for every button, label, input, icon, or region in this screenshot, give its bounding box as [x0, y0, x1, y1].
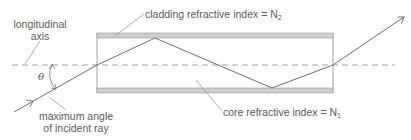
incident-ray: [14, 65, 97, 112]
core-label: core refractive index = N1: [223, 106, 341, 122]
fiber-core: [97, 33, 333, 93]
incident-leader-line: [49, 97, 66, 110]
exit-ray: [333, 17, 404, 65]
theta-symbol: θ: [38, 71, 44, 82]
core-leader-line: [196, 80, 222, 111]
incident-label-line2: of incident ray: [36, 122, 116, 134]
core-label-text: core refractive index = N: [223, 106, 337, 118]
incident-label-line1: maximum angle: [36, 110, 116, 122]
longitudinal-axis-label-line2: axis: [10, 30, 70, 42]
theta-label: θ: [38, 71, 44, 83]
cladding-subscript: 2: [278, 14, 282, 21]
top-cladding: [97, 33, 333, 38]
longitudinal-axis-label: longitudinal axis: [10, 18, 70, 42]
bottom-cladding: [97, 88, 333, 93]
cladding-label: cladding refractive index = N2: [145, 8, 282, 24]
longitudinal-axis-label-line1: longitudinal: [10, 18, 70, 30]
reflected-ray-path: [97, 38, 333, 88]
cladding-label-text: cladding refractive index = N: [145, 8, 278, 20]
theta-angle-arc: [50, 65, 55, 89]
incident-ray-label: maximum angle of incident ray: [36, 110, 116, 134]
axis-leader-line: [25, 41, 40, 64]
core-subscript: 1: [337, 112, 341, 119]
cladding-leader-line: [116, 14, 144, 35]
